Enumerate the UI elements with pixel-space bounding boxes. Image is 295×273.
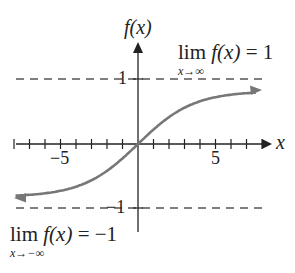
limit-subscript-pos-inf: x→∞ xyxy=(178,64,204,79)
x-axis-arrow-icon xyxy=(262,139,272,149)
limit-annotation-pos-inf: lim f(x) = 1 xyxy=(178,40,273,65)
x-tick-label-neg5: −5 xyxy=(50,148,69,169)
x-axis-label: x xyxy=(276,131,285,154)
y-axis-arrow-icon xyxy=(133,42,143,53)
y-tick-label-1: 1 xyxy=(118,68,127,89)
limit-subscript-neg-inf: x→−∞ xyxy=(10,246,44,261)
y-tick-label-neg1: −1 xyxy=(106,197,125,218)
limit-annotation-neg-inf: lim f(x) = −1 xyxy=(10,222,117,247)
curve-arrow-right-icon xyxy=(250,86,262,96)
y-axis-label: f(x) xyxy=(124,16,152,39)
x-tick-label-5: 5 xyxy=(211,148,220,169)
